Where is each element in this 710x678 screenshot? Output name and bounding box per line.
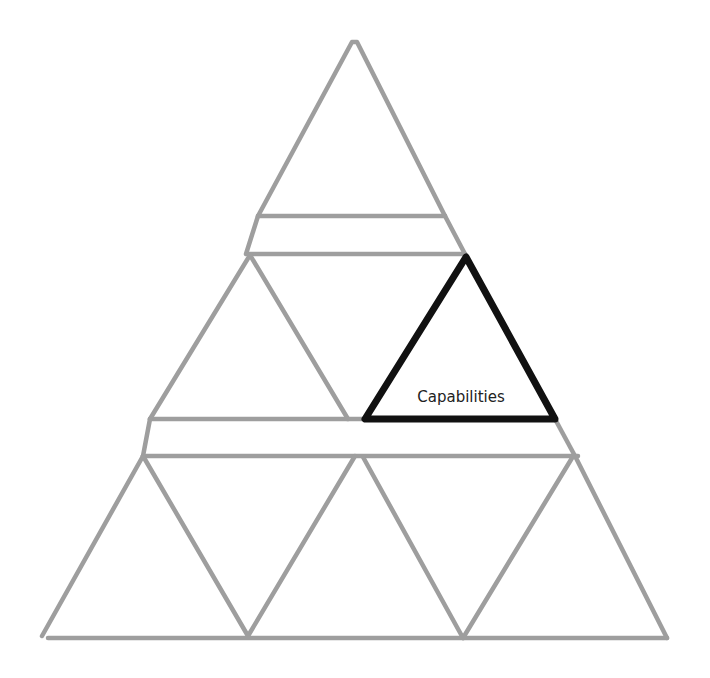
middle-left-triangle — [150, 255, 348, 419]
pyramid-diagram: Capabilities — [0, 0, 710, 678]
middle-tier — [143, 255, 575, 456]
bottom-right-edge — [575, 456, 667, 638]
top-right-edge-extension — [445, 216, 465, 254]
bottom-diag-3 — [363, 457, 463, 638]
top-left-edge-extension — [246, 216, 258, 254]
bottom-tier — [42, 456, 667, 638]
top-tier — [246, 42, 465, 254]
bottom-diag-2 — [248, 456, 355, 636]
capabilities-cell[interactable]: Capabilities — [365, 257, 555, 419]
bottom-diag-1 — [143, 456, 248, 636]
capabilities-label: Capabilities — [417, 388, 505, 406]
middle-right-edge-extension — [555, 419, 575, 456]
middle-left-edge-extension — [143, 419, 150, 456]
bottom-left-edge — [42, 456, 143, 636]
bottom-diag-4 — [463, 458, 572, 638]
top-triangle — [258, 42, 445, 216]
